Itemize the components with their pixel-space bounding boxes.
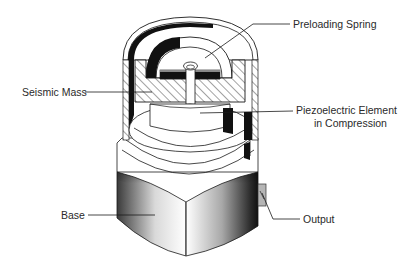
- label-seismic-mass: Seismic Mass: [22, 86, 87, 98]
- label-preloading-spring: Preloading Spring: [293, 18, 377, 30]
- center-post: [184, 62, 198, 106]
- label-piezo-line1: Piezoelectric Element: [296, 104, 397, 116]
- label-output: Output: [303, 213, 335, 225]
- accelerometer-diagram: Preloading Spring Seismic Mass Piezoelec…: [0, 0, 414, 272]
- label-piezo-line2: in Compression: [314, 117, 387, 129]
- leader-output: [262, 193, 300, 219]
- base-body: [117, 138, 258, 256]
- label-base: Base: [61, 209, 85, 221]
- piezoelectric-element: [129, 104, 252, 152]
- output-connector: [258, 184, 266, 206]
